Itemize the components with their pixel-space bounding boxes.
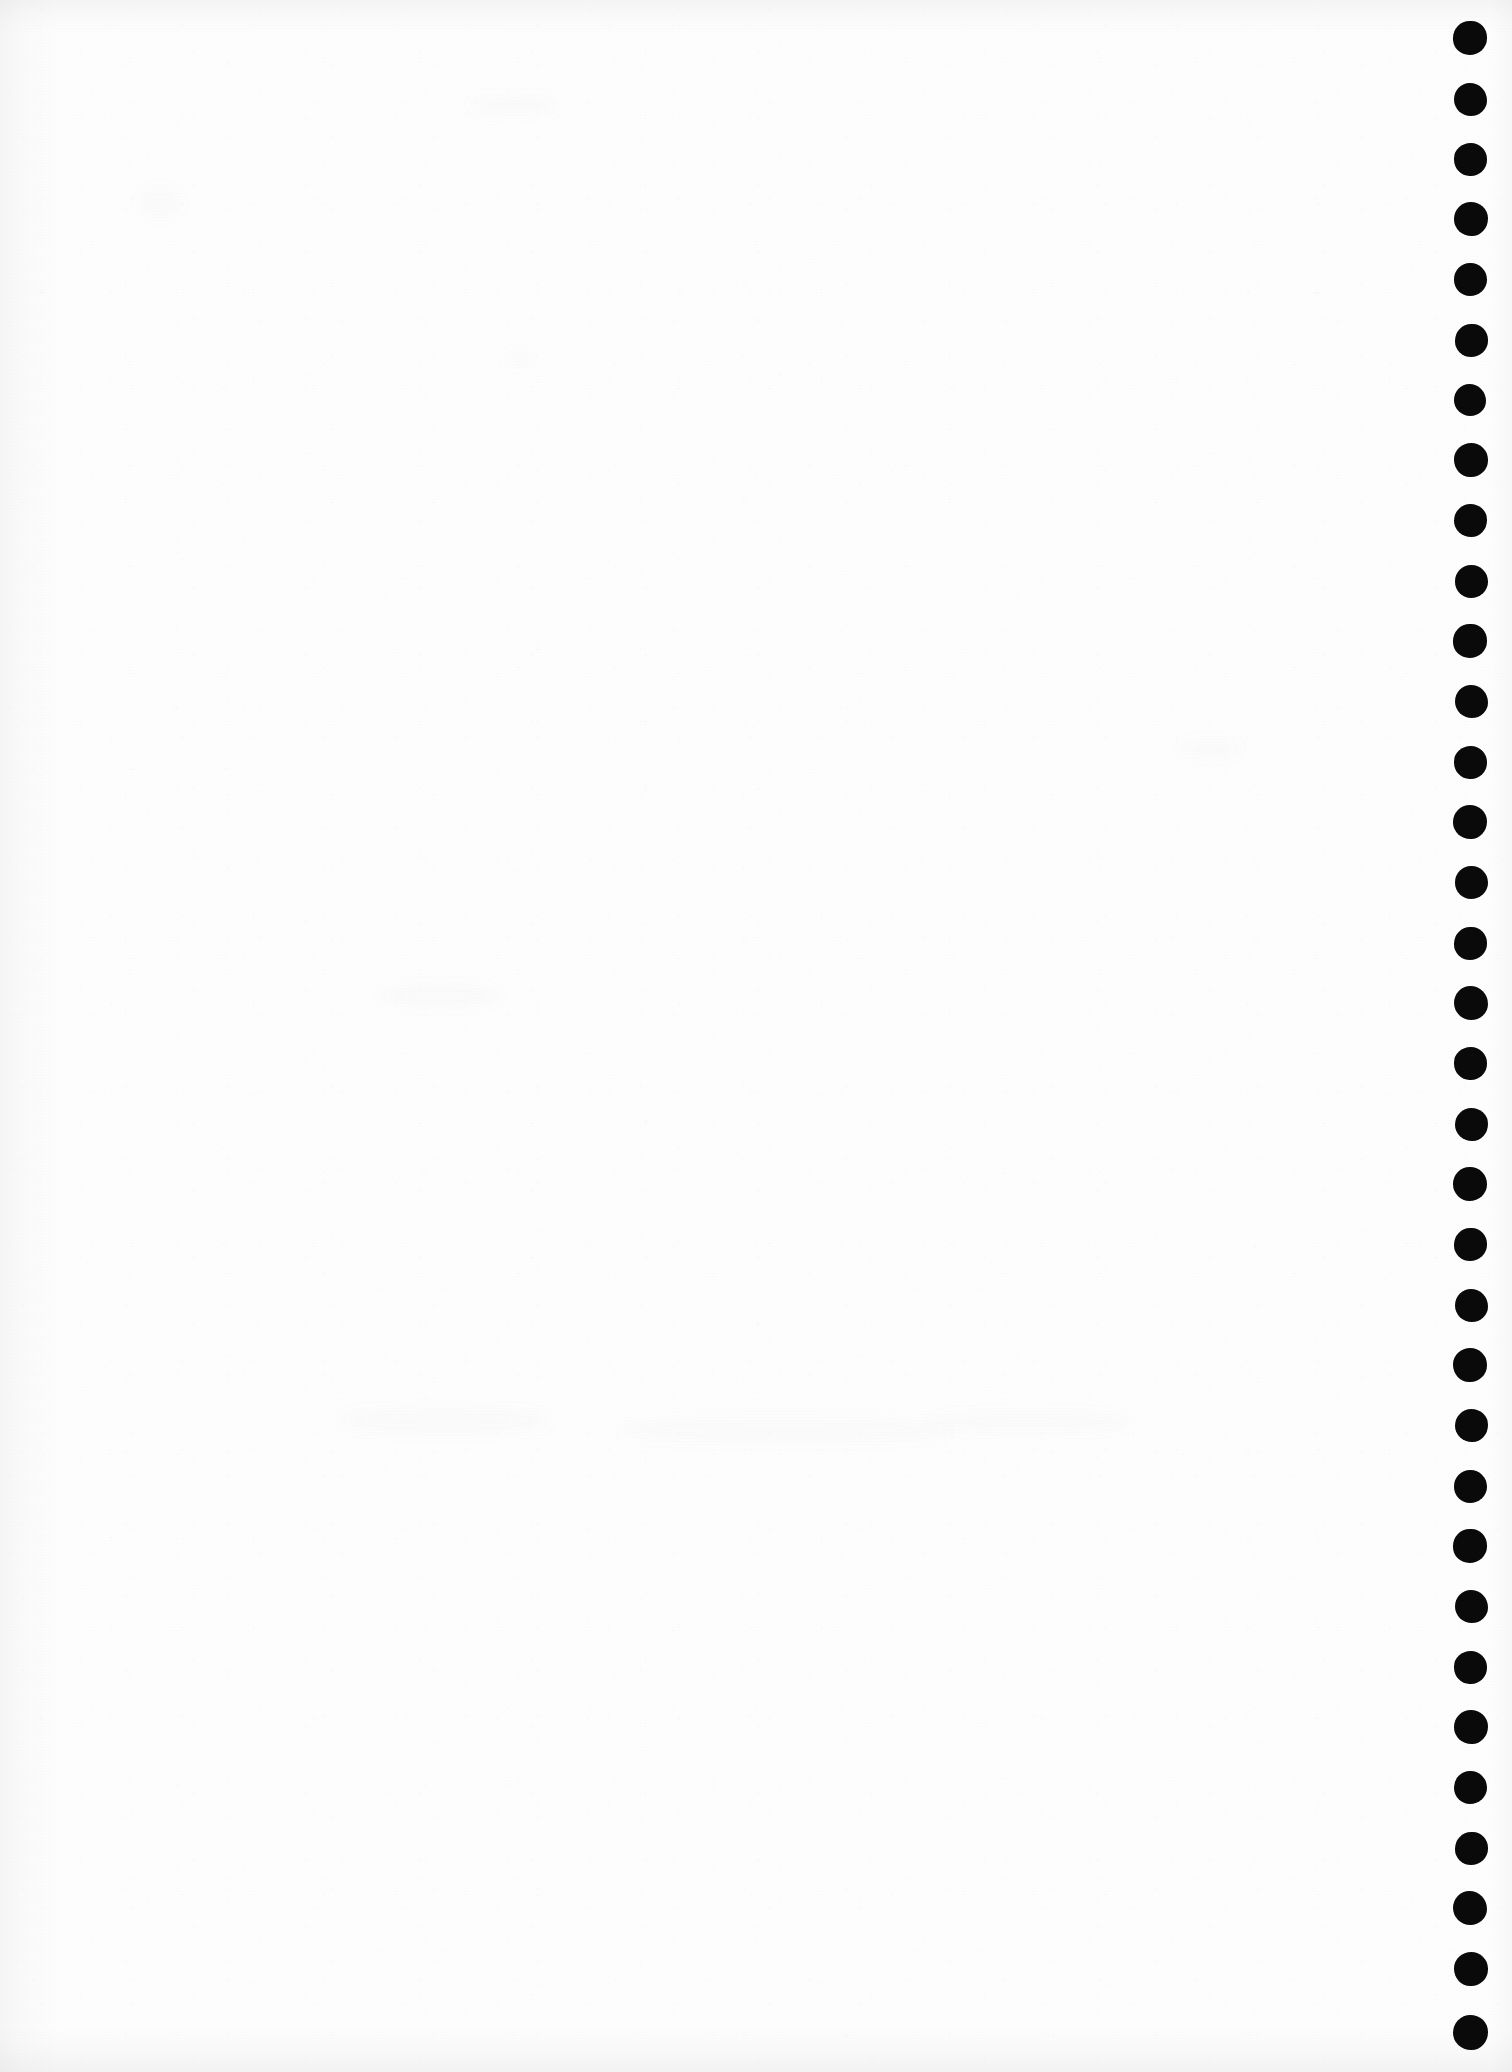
binding-hole-dot xyxy=(1455,1108,1488,1141)
binding-hole-dot xyxy=(1453,21,1487,55)
binding-hole-dot xyxy=(1454,263,1487,296)
binding-hole-dot xyxy=(1454,504,1487,537)
binding-hole-dot xyxy=(1455,685,1488,718)
binding-hole-dot xyxy=(1453,1529,1487,1563)
binding-hole-dot xyxy=(1454,443,1488,477)
binding-hole-dot xyxy=(1454,1047,1487,1080)
binding-hole-dot xyxy=(1454,746,1487,779)
binding-hole-dot xyxy=(1455,1289,1488,1322)
binding-hole-dot xyxy=(1454,927,1487,960)
binding-hole-dot xyxy=(1454,1228,1487,1261)
binding-hole-dot xyxy=(1455,1590,1488,1623)
binding-hole-dot xyxy=(1455,1832,1488,1865)
binding-hole-dot xyxy=(1454,1952,1488,1986)
binding-hole-dot xyxy=(1455,324,1488,357)
scanned-page xyxy=(0,0,1512,2072)
binding-hole-dot xyxy=(1455,565,1488,598)
binding-hole-dot xyxy=(1453,624,1487,658)
binding-hole-dot xyxy=(1454,202,1488,236)
binding-hole-dot xyxy=(1454,1710,1488,1744)
paper-background xyxy=(0,0,1512,2072)
binding-hole-column xyxy=(1430,0,1510,2072)
binding-hole-dot xyxy=(1454,986,1488,1020)
binding-hole-dot xyxy=(1454,1771,1487,1804)
binding-hole-dot xyxy=(1454,384,1486,416)
binding-hole-dot xyxy=(1453,805,1487,839)
binding-hole-dot xyxy=(1454,143,1487,176)
binding-hole-dot xyxy=(1455,866,1488,899)
binding-hole-dot xyxy=(1453,1167,1487,1201)
binding-hole-dot xyxy=(1454,83,1487,116)
binding-hole-dot xyxy=(1453,2015,1488,2050)
binding-hole-dot xyxy=(1455,1409,1488,1442)
binding-hole-dot xyxy=(1454,1470,1487,1503)
binding-hole-dot xyxy=(1453,1891,1487,1925)
binding-hole-dot xyxy=(1454,1651,1487,1684)
binding-hole-dot xyxy=(1453,1348,1487,1382)
